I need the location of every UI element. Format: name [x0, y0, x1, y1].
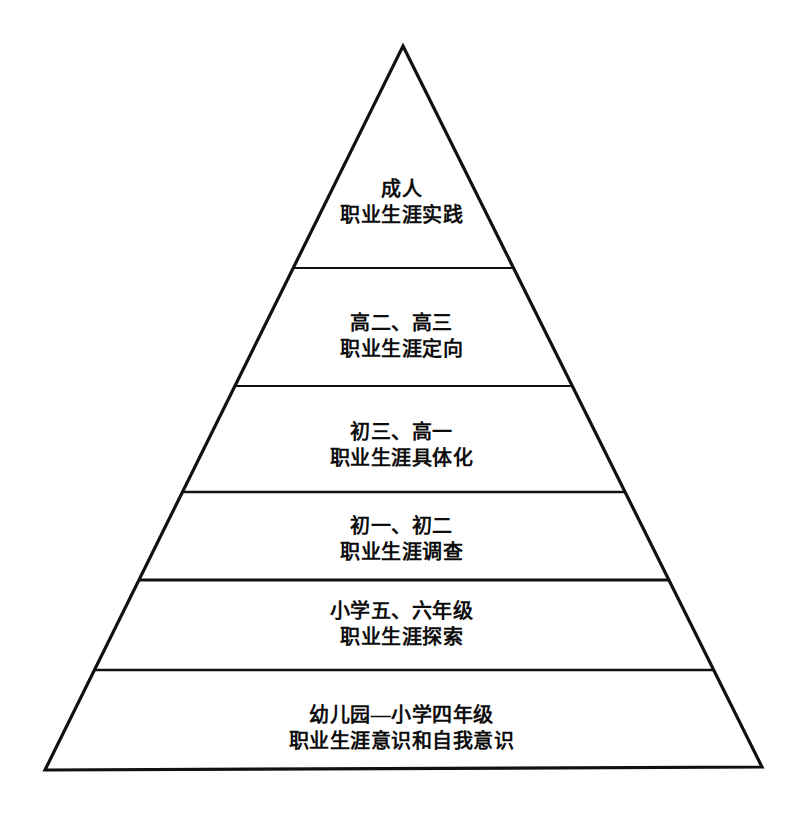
pyramid-shape [0, 0, 803, 814]
pyramid-outline [45, 46, 762, 770]
career-pyramid-diagram: 成人 职业生涯实践 高二、高三 职业生涯定向 初三、高一 职业生涯具体化 初一、… [0, 0, 803, 814]
